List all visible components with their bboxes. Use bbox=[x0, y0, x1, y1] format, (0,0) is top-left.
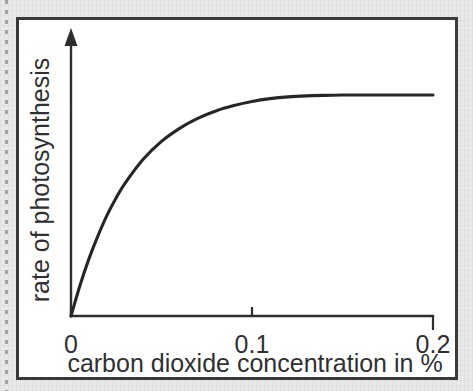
photosynthesis-rate-curve bbox=[71, 95, 433, 316]
page-perforation-strip bbox=[5, 0, 8, 391]
figure-frame: 0 0.1 0.2 carbon dioxide concentration i… bbox=[16, 17, 458, 380]
x-axis bbox=[71, 307, 433, 330]
y-axis bbox=[65, 28, 78, 316]
x-axis-title: carbon dioxide concentration in % bbox=[67, 349, 442, 377]
y-axis-arrow-icon bbox=[65, 28, 78, 46]
y-axis-title: rate of photosynthesis bbox=[26, 58, 54, 303]
photosynthesis-co2-chart: 0 0.1 0.2 carbon dioxide concentration i… bbox=[19, 20, 455, 377]
